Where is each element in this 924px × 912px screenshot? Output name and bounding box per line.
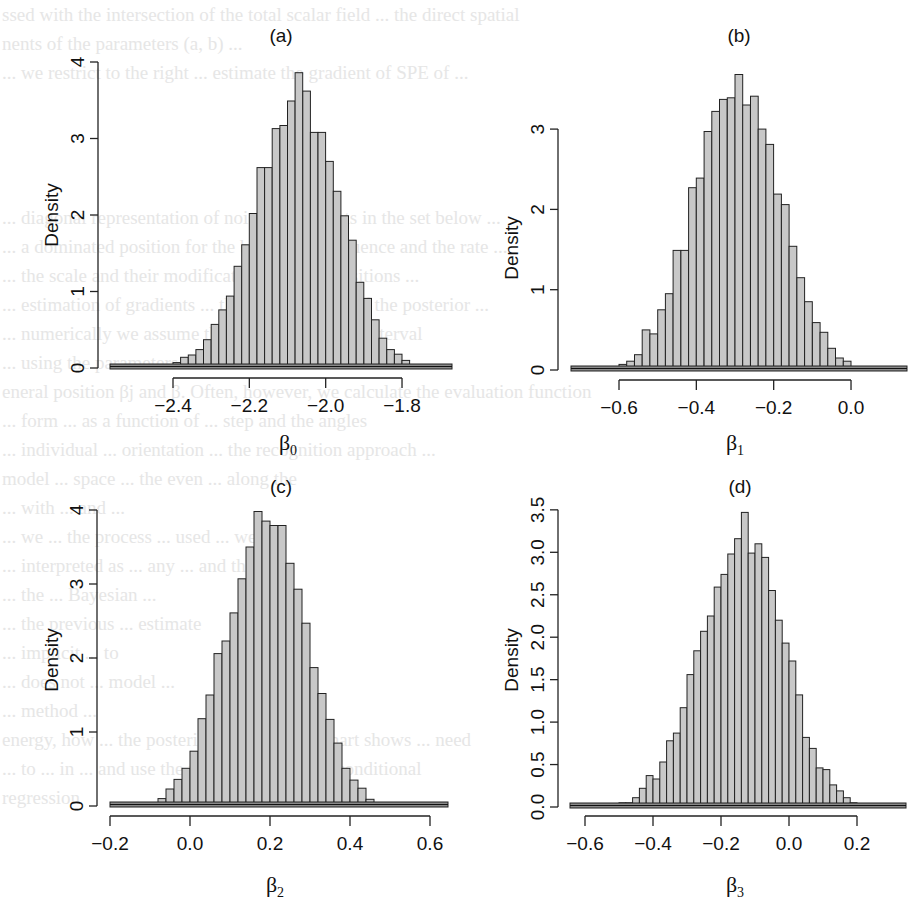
x-tick-label: 0.0 — [838, 397, 864, 418]
histogram-bar — [809, 748, 816, 807]
histogram-bar — [303, 91, 311, 368]
histogram-bar — [356, 282, 364, 368]
histogram-bar — [372, 320, 380, 368]
histogram-bar — [803, 737, 810, 807]
histogram-bar — [646, 776, 653, 807]
histogram-bar — [769, 591, 776, 808]
y-tick-label: 2 — [67, 210, 88, 221]
x-tick-label: −2.4 — [154, 395, 192, 416]
x-axis-label: β0 — [279, 430, 297, 458]
histogram-bar — [219, 310, 227, 368]
histogram-bar — [270, 526, 278, 807]
y-tick-label: 1.0 — [527, 709, 548, 735]
histogram-bar — [326, 161, 334, 368]
histogram-bar — [349, 240, 357, 368]
x-tick-label: −0.4 — [634, 833, 672, 854]
x-tick-label: −0.6 — [600, 397, 638, 418]
histogram-bar — [302, 623, 310, 806]
histogram-bar — [781, 205, 789, 370]
x-tick-label: −0.6 — [566, 833, 604, 854]
panel-title: (c) — [270, 476, 292, 497]
y-tick-label: 2 — [66, 653, 87, 664]
histogram-bar — [735, 75, 743, 371]
histogram-bar — [246, 547, 254, 806]
histogram-bar — [727, 98, 735, 370]
histogram-bar — [696, 178, 704, 370]
histogram-bar — [721, 574, 728, 807]
histogram-bar — [755, 544, 762, 807]
histogram-bar — [743, 105, 751, 370]
histogram-bar — [310, 668, 318, 806]
y-tick-label: 1.5 — [527, 666, 548, 692]
histogram-bar — [660, 762, 667, 807]
y-tick-label: 4 — [67, 56, 88, 67]
y-tick-label: 2.0 — [527, 624, 548, 650]
y-tick-label: 0 — [66, 801, 87, 812]
histogram-bar — [789, 661, 796, 807]
x-tick-label: 0.2 — [257, 833, 283, 854]
panel-title: (b) — [727, 25, 750, 46]
x-tick-label: 0.6 — [417, 833, 443, 854]
histogram-bar — [805, 302, 813, 370]
histogram-bar — [774, 194, 782, 370]
histogram-bar — [680, 708, 687, 807]
histogram-bar — [234, 266, 242, 368]
histogram-bar — [254, 512, 262, 807]
histogram-panel-d: (d)Density0.00.51.01.52.02.53.03.5−0.6−0… — [501, 476, 906, 900]
histogram-bar — [280, 126, 288, 369]
histogram-bar — [230, 613, 238, 806]
y-tick-label: 0 — [527, 365, 548, 376]
histogram-bar — [198, 719, 206, 806]
x-tick-label: −0.2 — [91, 833, 129, 854]
histogram-bar — [758, 129, 766, 370]
histogram-bar — [294, 589, 302, 806]
histogram-bar — [242, 245, 250, 368]
x-tick-label: −2.2 — [231, 395, 269, 416]
x-tick-label: 0.4 — [337, 833, 364, 854]
histogram-bar — [665, 294, 673, 370]
histogram-bar — [766, 144, 774, 370]
histogram-bar — [823, 770, 830, 807]
histogram-bar — [812, 323, 820, 370]
histogram-bar — [728, 554, 735, 807]
histogram-bar — [789, 246, 797, 370]
histogram-figure: (a)Density01234−2.4−2.2−2.0−1.8β0(b)Dens… — [0, 0, 924, 912]
histogram-bar — [751, 96, 759, 370]
histogram-panel-c: (c)Density01234−0.20.00.20.40.6β2 — [41, 476, 448, 900]
histogram-bar — [341, 216, 349, 368]
histogram-bar — [257, 168, 265, 368]
histogram-bar — [707, 616, 714, 807]
histogram-bar — [775, 620, 782, 807]
y-axis-label: Density — [501, 628, 522, 692]
x-tick-label: −0.4 — [678, 397, 716, 418]
histogram-panel-a: (a)Density01234−2.4−2.2−2.0−1.8β0 — [41, 25, 452, 458]
histogram-bar — [222, 641, 230, 806]
histogram-bar — [265, 168, 273, 368]
y-tick-label: 1 — [67, 286, 88, 297]
y-tick-label: 1 — [66, 727, 87, 738]
y-tick-label: 2 — [527, 204, 548, 215]
histogram-bar — [762, 557, 769, 807]
y-tick-label: 3.5 — [527, 497, 548, 523]
histogram-bar — [687, 675, 694, 807]
histogram-bar — [681, 250, 689, 370]
histogram-bar — [820, 332, 828, 370]
histogram-bar — [342, 768, 350, 806]
histogram-bar — [318, 132, 326, 368]
histogram-bar — [288, 101, 296, 368]
histogram-bar — [650, 334, 658, 370]
histogram-bar — [667, 741, 674, 807]
histogram-bar — [658, 310, 666, 370]
histogram-bar — [190, 751, 198, 806]
y-tick-label: 0.0 — [527, 794, 548, 820]
x-tick-label: 0.0 — [776, 833, 802, 854]
histogram-bar — [735, 539, 742, 807]
histogram-bar — [326, 719, 334, 806]
histogram-bar — [673, 250, 681, 370]
histogram-bar — [238, 579, 246, 806]
y-tick-label: 0 — [67, 363, 88, 374]
histogram-bar — [748, 553, 755, 807]
histogram-bar — [673, 733, 680, 807]
histogram-bar — [782, 643, 789, 807]
histogram-bar — [816, 768, 823, 807]
